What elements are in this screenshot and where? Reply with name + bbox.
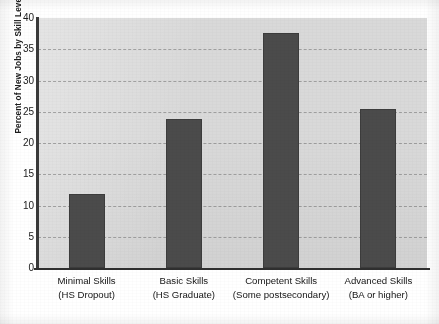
x-tick-label-sub: (HS Dropout) — [38, 288, 135, 302]
chart-title-cropped — [0, 0, 439, 6]
x-tick-label-sub: (Some postsecondary) — [233, 288, 330, 302]
x-tick-label: Competent Skills(Some postsecondary) — [233, 274, 330, 302]
bar — [166, 119, 202, 268]
x-tick-label-main: Competent Skills — [245, 275, 317, 286]
y-tick-label: 10 — [10, 201, 34, 211]
y-axis-tick-labels: 0510152025303540 — [8, 0, 34, 324]
y-tick-label: 30 — [10, 76, 34, 86]
bar-chart: Percent of New Jobs by Skill Level 05101… — [0, 0, 439, 324]
x-tick-label: Advanced Skills(BA or higher) — [330, 274, 427, 302]
x-tick-label-main: Basic Skills — [160, 275, 209, 286]
y-axis-spine — [36, 17, 39, 269]
gridline — [38, 49, 427, 50]
x-axis-line — [34, 268, 430, 270]
y-tick-label: 0 — [10, 263, 34, 273]
y-tick-label: 35 — [10, 44, 34, 54]
y-tick-label: 20 — [10, 138, 34, 148]
y-tick-label: 40 — [10, 13, 34, 23]
x-tick-label-main: Advanced Skills — [345, 275, 413, 286]
x-tick-label-sub: (HS Graduate) — [135, 288, 232, 302]
bar — [69, 194, 105, 268]
y-tick-label: 25 — [10, 107, 34, 117]
x-tick-label: Basic Skills(HS Graduate) — [135, 274, 232, 302]
x-tick-label: Minimal Skills(HS Dropout) — [38, 274, 135, 302]
bar — [263, 33, 299, 268]
bar — [360, 109, 396, 268]
y-tick-label: 5 — [10, 232, 34, 242]
y-tick-label: 15 — [10, 169, 34, 179]
x-tick-label-sub: (BA or higher) — [330, 288, 427, 302]
plot-area — [38, 18, 427, 268]
x-tick-label-main: Minimal Skills — [58, 275, 116, 286]
gridline — [38, 81, 427, 82]
x-axis-tick-labels: Minimal Skills(HS Dropout)Basic Skills(H… — [38, 274, 427, 322]
